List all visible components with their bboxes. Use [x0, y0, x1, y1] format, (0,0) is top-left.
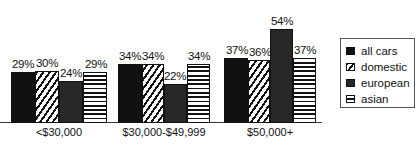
value-label: 36%	[245, 46, 275, 58]
category-label: $30,000-$49,999	[114, 126, 214, 138]
legend-item-asian: asian	[346, 92, 389, 106]
chart-legend: all cars domestic european asian	[340, 38, 415, 108]
category-label: <$30,000	[11, 126, 107, 138]
value-label: 34%	[184, 50, 214, 62]
dotted-swatch-icon	[346, 79, 355, 87]
bar-50k-plus-asian	[293, 58, 316, 123]
bar-30k-50k-asian	[187, 64, 210, 123]
bar-30k-50k-all-cars	[118, 64, 142, 123]
horizontal-swatch-icon	[346, 95, 355, 103]
diagonal-swatch-icon	[346, 63, 355, 71]
value-label: 29%	[81, 58, 111, 70]
value-label: 22%	[160, 70, 190, 82]
bar-under30k-all-cars	[11, 72, 35, 123]
solid-swatch-icon	[346, 47, 355, 55]
legend-item-domestic: domestic	[346, 60, 407, 74]
bar-30k-50k-european	[164, 84, 187, 123]
grouped-bar-chart: 29% 30% 24% 29% <$30,000 34% 34% 22% 34%…	[0, 0, 418, 152]
bar-50k-plus-all-cars	[224, 58, 248, 123]
category-label: $50,000+	[220, 126, 320, 138]
legend-item-european: european	[346, 76, 410, 90]
bar-under30k-european	[59, 81, 83, 123]
value-label: 37%	[290, 44, 320, 56]
legend-item-all-cars: all cars	[346, 44, 397, 58]
value-label: 34%	[138, 50, 168, 62]
bar-under30k-asian	[83, 72, 107, 123]
value-label: 54%	[267, 15, 297, 27]
bar-50k-plus-domestic	[248, 60, 270, 123]
